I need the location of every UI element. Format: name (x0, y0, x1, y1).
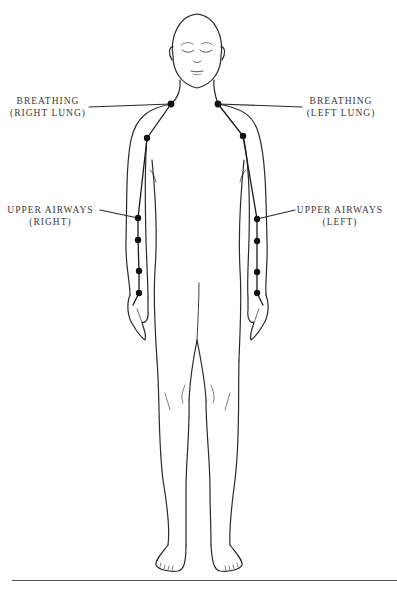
label-line: BREATHING (6, 95, 90, 107)
point-marker (135, 215, 141, 221)
leader-breathing-right (89, 104, 171, 107)
label-subline: (LEFT LUNG) (303, 107, 379, 119)
body-outline (126, 104, 268, 571)
label-subline: (LEFT) (295, 216, 385, 228)
leader-upper-airways-right (100, 210, 138, 218)
label-line: UPPER AIRWAYS (295, 204, 385, 216)
label-subline: (RIGHT) (3, 216, 98, 228)
point-marker (254, 269, 260, 275)
head (169, 14, 224, 104)
leader-upper-airways-left (257, 210, 295, 219)
meridian-right (133, 104, 171, 305)
leader-lines (89, 104, 302, 219)
point-marker (254, 238, 260, 244)
body-figure-diagram (0, 0, 397, 589)
point-marker (240, 133, 246, 139)
point-marker (135, 237, 141, 243)
point-marker (254, 290, 260, 296)
point-marker (168, 101, 175, 108)
label-line: BREATHING (303, 95, 379, 107)
label-upper-airways-right: UPPER AIRWAYS (RIGHT) (3, 204, 98, 228)
label-breathing-right-lung: BREATHING (RIGHT LUNG) (6, 95, 90, 119)
bottom-rule-divider (12, 580, 397, 581)
point-marker (254, 216, 260, 222)
label-subline: (RIGHT LUNG) (6, 107, 90, 119)
label-line: UPPER AIRWAYS (3, 204, 98, 216)
point-marker (144, 135, 150, 141)
point-marker (215, 101, 222, 108)
point-marker (136, 290, 142, 296)
label-breathing-left-lung: BREATHING (LEFT LUNG) (303, 95, 379, 119)
point-marker (136, 268, 142, 274)
label-upper-airways-left: UPPER AIRWAYS (LEFT) (295, 204, 385, 228)
